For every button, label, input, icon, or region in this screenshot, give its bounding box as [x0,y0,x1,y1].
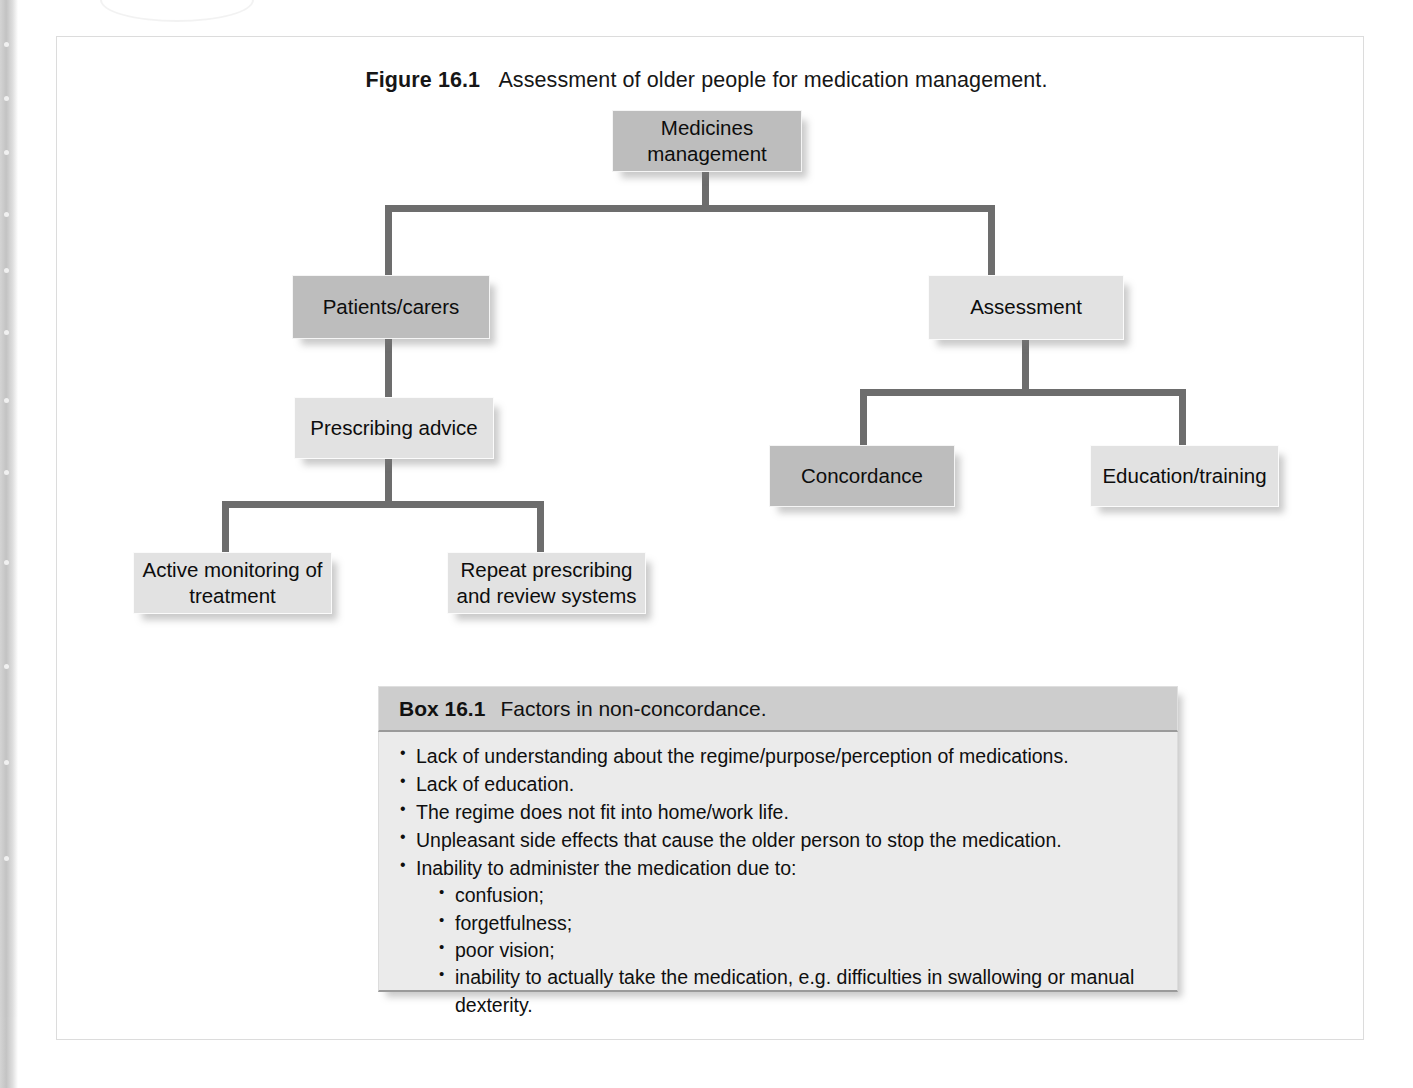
node-patients-carers-label: Patients/carers [323,294,460,320]
box-16-1: Box 16.1 Factors in non-concordance. Lac… [378,686,1178,992]
node-education-training-label: Education/training [1102,463,1266,489]
node-label-line2: treatment [189,584,276,607]
node-concordance[interactable]: Concordance [769,445,955,507]
sub-list-item: forgetfulness; [438,910,1159,937]
edge-to-repeat-prescribing [537,501,544,553]
node-patients-carers[interactable]: Patients/carers [292,275,490,339]
node-label-line1: Repeat prescribing [460,558,632,581]
edge-assessment-stem [1022,340,1029,392]
node-prescribing-advice-label: Prescribing advice [310,415,478,441]
box-16-1-body: Lack of understanding about the regime/p… [378,732,1178,992]
edge-prescribing-stem [385,458,392,506]
list-item: Lack of education. [399,771,1159,798]
node-assessment[interactable]: Assessment [928,275,1124,340]
node-label-line1: Medicines [661,116,753,139]
list-item: The regime does not fit into home/work l… [399,799,1159,826]
edge-to-education-training [1179,389,1186,445]
sub-list-item: confusion; [438,882,1159,909]
figure-caption-text: Assessment of older people for medicatio… [498,68,1047,92]
node-education-training[interactable]: Education/training [1090,445,1279,507]
scan-smudge-artifact [100,0,254,22]
edge-to-concordance [860,389,867,445]
list-item: Inability to administer the medication d… [399,855,1159,1019]
edge-to-patients-carers [385,205,392,275]
edge-patients-to-prescribing [385,338,392,400]
node-prescribing-advice[interactable]: Prescribing advice [294,397,494,459]
node-label-line2: management [647,142,767,165]
list-item: Lack of understanding about the regime/p… [399,743,1159,770]
node-label-line1: Active monitoring of [142,558,322,581]
edge-level2-right-bus [860,389,1186,396]
figure-caption: Figure 16.1 Assessment of older people f… [0,68,1413,93]
list-item: Unpleasant side effects that cause the o… [399,827,1159,854]
sub-list-item: poor vision; [438,937,1159,964]
box-16-1-title: Factors in non-concordance. [500,697,766,721]
box-16-1-header: Box 16.1 Factors in non-concordance. [378,686,1178,732]
list-item-text: Inability to administer the medication d… [416,857,796,879]
node-active-monitoring[interactable]: Active monitoring of treatment [133,552,332,614]
node-medicines-management[interactable]: Medicines management [612,110,802,172]
node-medicines-management-label: Medicines management [647,115,767,167]
edge-to-active-monitoring [222,501,229,553]
node-concordance-label: Concordance [801,463,923,489]
page-canvas: Figure 16.1 Assessment of older people f… [0,0,1413,1088]
box-16-1-bullet-list: Lack of understanding about the regime/p… [399,743,1159,1019]
box-16-1-label: Box 16.1 [399,697,485,721]
node-assessment-label: Assessment [970,294,1082,320]
box-16-1-sub-list: confusion; forgetfulness; poor vision; i… [416,882,1159,1018]
figure-label: Figure 16.1 [366,68,481,92]
node-label-line2: and review systems [456,584,636,607]
edge-level3-bus [222,501,544,508]
edge-to-assessment [988,205,995,275]
node-active-monitoring-label: Active monitoring of treatment [142,557,322,609]
sub-list-item: inability to actually take the medicatio… [438,964,1159,1019]
node-repeat-prescribing-label: Repeat prescribing and review systems [456,557,636,609]
node-repeat-prescribing[interactable]: Repeat prescribing and review systems [447,552,646,614]
edge-level1-bus [385,205,995,212]
scan-binding-gutter [0,0,18,1088]
